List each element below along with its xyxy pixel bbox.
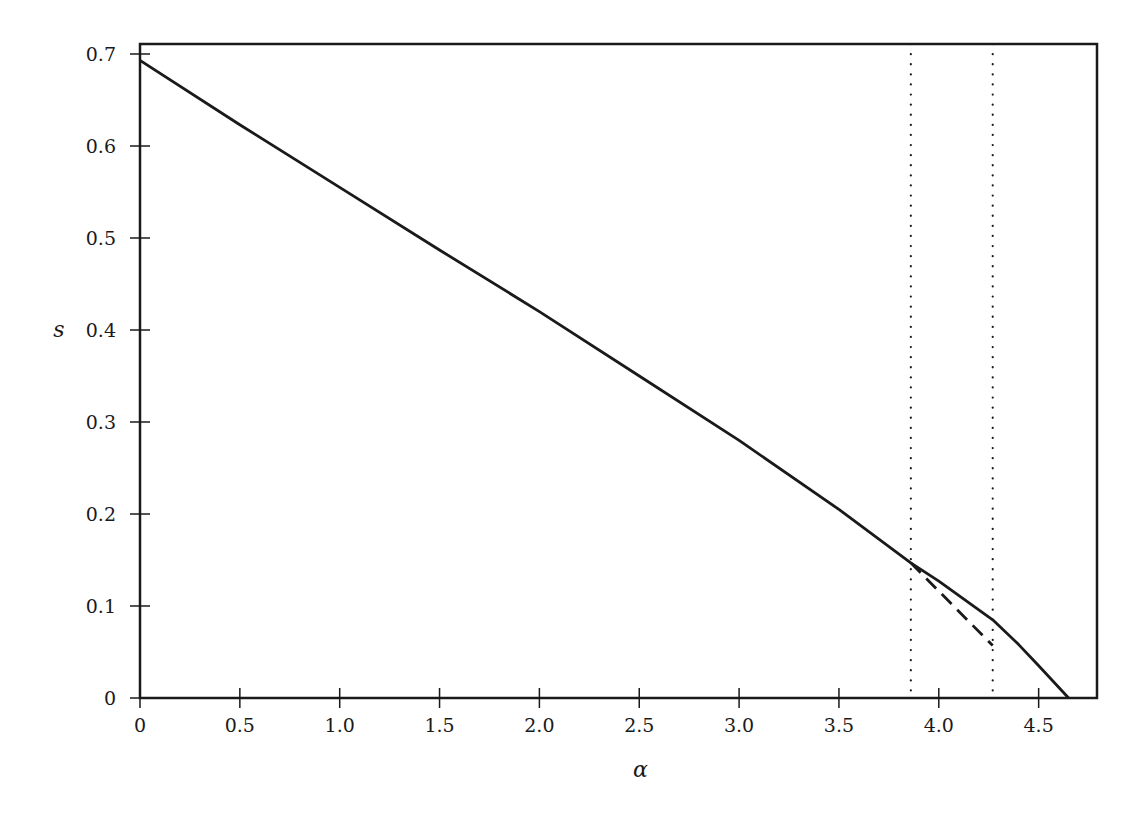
y-tick-label: 0.6: [86, 135, 116, 157]
x-tick-label: 3.0: [724, 714, 754, 736]
vertical-reference-lines: [911, 44, 993, 698]
y-tick-label: 0.3: [86, 411, 116, 433]
solid-curve: [140, 60, 1069, 698]
y-axis-label: s: [53, 317, 64, 342]
y-tick-label: 0.4: [86, 319, 116, 341]
x-axis-ticks: 00.51.01.52.02.53.03.54.04.5: [134, 688, 1054, 736]
x-tick-label: 2.5: [624, 714, 654, 736]
dashed-curve: [911, 563, 993, 646]
chart: 00.51.01.52.02.53.03.54.04.5 00.10.20.30…: [0, 0, 1136, 819]
x-tick-label: 0.5: [225, 714, 255, 736]
y-tick-label: 0: [104, 687, 116, 709]
y-tick-label: 0.1: [86, 595, 116, 617]
x-tick-label: 3.5: [824, 714, 854, 736]
x-tick-label: 2.0: [524, 714, 554, 736]
plot-frame: [140, 44, 1097, 698]
x-tick-label: 0: [134, 714, 146, 736]
x-tick-label: 4.5: [1024, 714, 1054, 736]
x-tick-label: 1.0: [325, 714, 355, 736]
x-tick-label: 4.0: [924, 714, 954, 736]
x-axis-label: α: [633, 757, 648, 782]
x-tick-label: 1.5: [424, 714, 454, 736]
y-tick-label: 0.2: [86, 503, 116, 525]
y-tick-label: 0.5: [86, 227, 116, 249]
y-tick-label: 0.7: [86, 43, 116, 65]
data-series: [140, 60, 1069, 698]
